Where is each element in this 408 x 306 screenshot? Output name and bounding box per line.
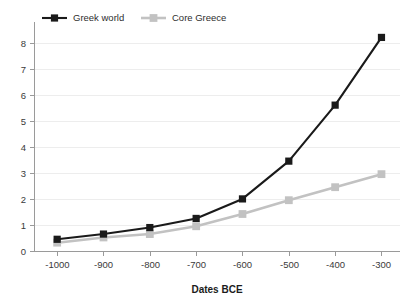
x-axis-tick-label: -500 xyxy=(280,259,299,270)
y-axis-tick-label: 0 xyxy=(21,246,26,257)
data-point-marker xyxy=(285,196,293,204)
x-axis-tick-label: -800 xyxy=(141,259,160,270)
x-axis-tick-label: -600 xyxy=(233,259,252,270)
axes-group: 012345678-1000-900-800-700-600-500-400-3… xyxy=(21,22,400,295)
y-axis-tick-label: 6 xyxy=(21,90,26,101)
data-point-marker xyxy=(378,170,386,178)
data-point-marker xyxy=(332,102,339,109)
y-axis-tick-label: 8 xyxy=(21,38,26,49)
x-axis-tick-label: -700 xyxy=(187,259,206,270)
x-axis-tick-label: -300 xyxy=(372,259,391,270)
legend-label: Greek world xyxy=(73,12,124,23)
data-point-marker xyxy=(193,215,200,222)
data-point-marker xyxy=(100,230,107,237)
legend-label: Core Greece xyxy=(172,12,226,23)
y-axis-tick-label: 5 xyxy=(21,116,26,127)
legend-swatch-marker xyxy=(150,14,158,22)
data-point-marker xyxy=(146,230,154,238)
series-greek-world xyxy=(54,34,386,243)
data-point-marker xyxy=(285,158,292,165)
legend-group: Greek worldCore Greece xyxy=(42,12,226,23)
data-point-marker xyxy=(239,195,246,202)
x-axis-tick-label: -1000 xyxy=(45,259,69,270)
legend-swatch-marker xyxy=(51,14,58,21)
series-group xyxy=(53,34,385,247)
y-axis-tick-label: 1 xyxy=(21,220,26,231)
data-point-marker xyxy=(239,210,247,218)
series-line xyxy=(57,37,381,239)
data-point-marker xyxy=(192,222,200,230)
y-axis-tick-label: 7 xyxy=(21,64,26,75)
x-axis-tick-label: -400 xyxy=(326,259,345,270)
data-point-marker xyxy=(54,236,61,243)
data-point-marker xyxy=(378,34,385,41)
y-axis-tick-label: 4 xyxy=(21,142,26,153)
x-axis-tick-label: -900 xyxy=(94,259,113,270)
chart-container: 012345678-1000-900-800-700-600-500-400-3… xyxy=(0,0,408,306)
legend-item-greek-world[interactable]: Greek world xyxy=(42,12,124,23)
data-point-marker xyxy=(146,224,153,231)
y-axis-tick-label: 3 xyxy=(21,168,26,179)
data-point-marker xyxy=(331,183,339,191)
gridlines-group xyxy=(34,44,400,226)
line-chart: 012345678-1000-900-800-700-600-500-400-3… xyxy=(0,0,408,306)
legend-item-core-greece[interactable]: Core Greece xyxy=(141,12,226,23)
x-axis-title: Dates BCE xyxy=(191,284,242,295)
y-axis-tick-label: 2 xyxy=(21,194,26,205)
